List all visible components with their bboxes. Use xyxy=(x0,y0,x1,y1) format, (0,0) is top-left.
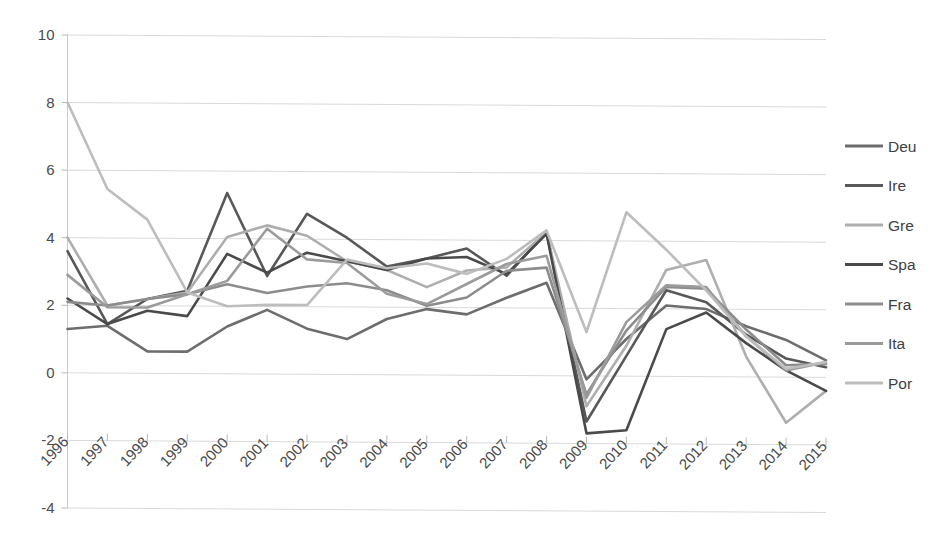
x-axis-tick-label: 1997 xyxy=(76,433,111,469)
gridline-horizontal xyxy=(68,35,827,40)
y-axis-tick-label: 6 xyxy=(46,161,54,178)
x-axis-tick-label: 2014 xyxy=(755,437,790,473)
x-axis-tick-label: 2012 xyxy=(675,437,710,473)
x-axis-tick-label: 1998 xyxy=(116,433,151,469)
chart-legend: DeuIreGreSpaFraItaPor xyxy=(845,138,916,392)
x-axis-tick-label: 2000 xyxy=(196,434,231,470)
gridline-horizontal xyxy=(68,373,827,378)
gridline-horizontal xyxy=(68,508,827,513)
chart-canvas: 1086420-2-4 1996199719981999200020012002… xyxy=(0,0,949,534)
data-series xyxy=(68,103,827,434)
legend-label-por[interactable]: Por xyxy=(888,375,912,392)
legend-label-spa[interactable]: Spa xyxy=(888,256,916,273)
x-axis-tick-label: 2001 xyxy=(236,434,271,470)
series-line-spa xyxy=(68,234,827,434)
y-axis-tick-label: 8 xyxy=(46,94,54,111)
legend-label-ire[interactable]: Ire xyxy=(888,177,906,194)
x-axis-tick-label: 2010 xyxy=(595,436,630,472)
x-axis-tick-label: 2015 xyxy=(795,437,830,473)
x-axis-tick-label: 2006 xyxy=(436,435,471,471)
y-axis-tick-label: 10 xyxy=(38,26,55,43)
x-axis-tick-label: 2011 xyxy=(636,436,670,471)
x-axis-tick-label: 2005 xyxy=(396,435,431,471)
gridline-horizontal xyxy=(68,238,827,243)
line-chart: 1086420-2-4 1996199719981999200020012002… xyxy=(0,0,949,534)
x-axis-tick-label: 2004 xyxy=(356,435,391,471)
legend-label-ita[interactable]: Ita xyxy=(888,335,906,352)
legend-label-deu[interactable]: Deu xyxy=(888,138,916,155)
series-line-por xyxy=(68,103,827,369)
x-axis-tick-label: 2013 xyxy=(715,437,750,473)
x-axis-tick-label: 1999 xyxy=(156,434,191,470)
y-axis-tick-label: 0 xyxy=(46,364,54,381)
y-axis-tick-label: 4 xyxy=(46,229,54,246)
series-line-gre xyxy=(68,225,827,422)
gridline-horizontal xyxy=(68,170,827,175)
x-axis-tick-label: 2007 xyxy=(476,435,511,471)
gridline-horizontal xyxy=(68,103,827,108)
y-axis-tick-label: -4 xyxy=(41,499,54,516)
x-axis-tick-label: 2003 xyxy=(316,435,351,471)
y-axis-tick-label: 2 xyxy=(46,296,54,313)
x-axis-tick-label: 2008 xyxy=(516,436,551,472)
legend-label-fra[interactable]: Fra xyxy=(888,296,912,313)
x-axis-tick-label: 2002 xyxy=(276,434,311,470)
legend-label-gre[interactable]: Gre xyxy=(888,217,914,234)
x-axis-tick-label: 2009 xyxy=(555,436,590,472)
x-axis-labels: 1996199719981999200020012002200320042005… xyxy=(36,433,830,474)
